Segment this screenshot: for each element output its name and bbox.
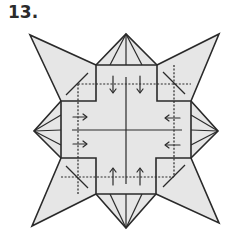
top-pyramid-flap (96, 34, 157, 65)
star-point-bottom-right (156, 158, 219, 223)
star-point-top-right (157, 34, 219, 101)
left-pyramid-flap (34, 101, 61, 158)
right-pyramid-flap (191, 101, 218, 158)
origami-diagram (0, 0, 234, 242)
bottom-pyramid-flap (96, 194, 156, 228)
star-point-bottom-left (32, 158, 96, 226)
star-point-top-left (30, 35, 96, 101)
